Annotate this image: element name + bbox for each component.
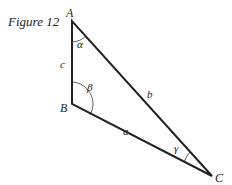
- angle-beta-label: β: [86, 81, 93, 93]
- angle-gamma-label: γ: [174, 142, 179, 154]
- side-c-label: c: [60, 58, 65, 70]
- figure-title: Figure 12: [7, 14, 60, 29]
- gamma-arc: [184, 152, 190, 162]
- triangle-diagram: Figure 12 A B C c b a α β γ: [0, 0, 232, 185]
- angle-alpha-label: α: [77, 38, 83, 50]
- vertex-b-label: B: [60, 101, 68, 115]
- vertex-c-label: C: [215, 171, 224, 185]
- side-a-label: a: [123, 125, 129, 137]
- vertex-a-label: A: [65, 6, 74, 20]
- triangle: [72, 21, 212, 176]
- side-b-label: b: [147, 88, 153, 100]
